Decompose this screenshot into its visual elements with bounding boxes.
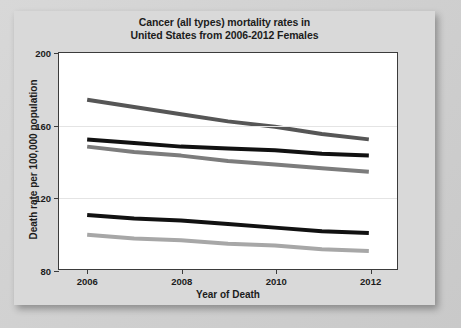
y-axis-tick [54,53,59,54]
chart-card: Cancer (all types) mortality rates in Un… [14,11,435,305]
x-axis-tick [276,269,277,274]
plot-area: 801201602002006200820102012 [58,52,398,270]
x-axis-tick-label: 2006 [77,276,98,287]
y-axis-tick [54,126,59,127]
series-lines [59,53,397,269]
y-axis-title-text: Death rate per 100,000 population [28,79,39,239]
x-axis-tick [87,269,88,274]
x-axis-tick [182,269,183,274]
series-line [87,100,369,140]
x-axis-tick-label: 2012 [360,276,381,287]
y-axis-title: Death rate per 100,000 population [26,59,40,259]
x-axis-tick-label: 2010 [266,276,287,287]
y-axis-tick-label: 120 [35,193,51,204]
x-axis-tick [371,269,372,274]
y-axis-tick [54,271,59,272]
series-line [87,235,369,251]
x-axis-title: Year of Death [58,289,398,300]
y-axis-tick-label: 160 [35,120,51,131]
chart-title-line-2: United States from 2006-2012 Females [14,29,435,42]
gridline-y [59,198,397,199]
gridline-y [59,126,397,127]
x-axis-tick-label: 2008 [171,276,192,287]
y-axis-tick-label: 80 [40,266,51,277]
chart-title-line-1: Cancer (all types) mortality rates in [14,16,435,29]
y-axis-tick-label: 200 [35,48,51,59]
series-line [87,215,369,233]
y-axis-tick [54,198,59,199]
series-line [87,147,369,172]
chart-title: Cancer (all types) mortality rates in Un… [14,16,435,42]
